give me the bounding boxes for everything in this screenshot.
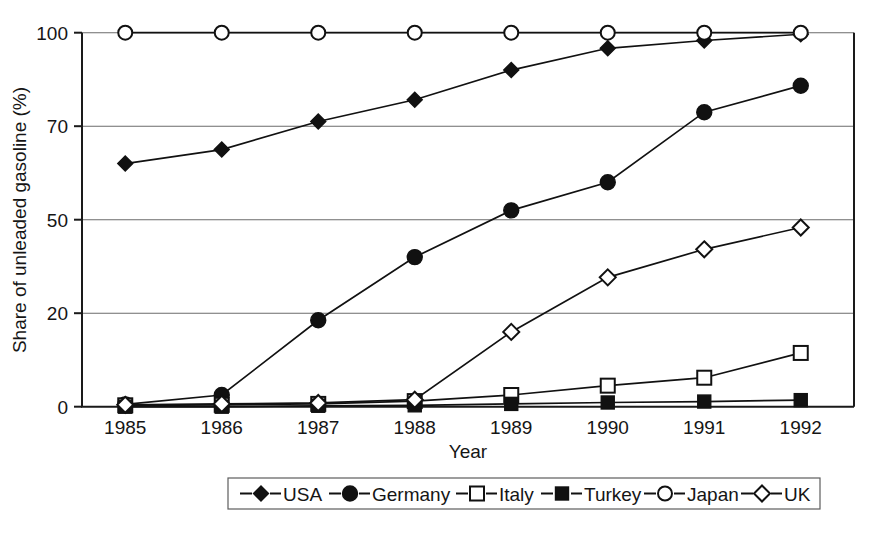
marker-open-circle — [311, 26, 325, 40]
marker-open-circle — [118, 26, 132, 40]
marker-filled-circle — [311, 313, 326, 328]
y-axis-ticks: 0205070100 — [36, 23, 82, 418]
y-tick-label-70: 70 — [47, 116, 68, 137]
line-chart: Share of unleaded gasoline (%) 020507010… — [0, 0, 875, 538]
marker-open-circle — [794, 26, 808, 40]
x-tick-label-1986: 1986 — [201, 417, 243, 438]
legend-label: Turkey — [584, 484, 642, 505]
chart-figure: Share of unleaded gasoline (%) 020507010… — [0, 0, 875, 538]
series-usa — [118, 27, 809, 171]
chart-legend: USAGermanyItalyTurkeyJapanUK — [228, 478, 820, 509]
marker-open-diamond — [600, 269, 616, 285]
x-tick-label-1988: 1988 — [394, 417, 436, 438]
marker-filled-circle — [504, 203, 519, 218]
marker-filled-circle — [697, 105, 712, 120]
marker-open-square — [470, 487, 484, 501]
y-tick-label-0: 0 — [57, 397, 68, 418]
marker-filled-circle — [407, 250, 422, 265]
series-line-usa — [125, 34, 801, 163]
x-axis-ticks: 19851986198719881989199019911992 — [104, 417, 822, 438]
y-tick-label-20: 20 — [47, 303, 68, 324]
marker-filled-diamond — [214, 142, 229, 157]
x-tick-label-1992: 1992 — [780, 417, 822, 438]
marker-filled-circle — [600, 175, 615, 190]
marker-open-circle — [504, 26, 518, 40]
marker-filled-square — [556, 487, 569, 500]
marker-filled-diamond — [118, 156, 133, 171]
marker-open-square — [601, 379, 615, 393]
marker-open-diamond — [503, 324, 519, 340]
marker-open-circle — [658, 487, 672, 501]
x-tick-label-1991: 1991 — [683, 417, 725, 438]
marker-filled-square — [698, 395, 711, 408]
legend-label: Italy — [499, 484, 534, 505]
marker-open-circle — [697, 26, 711, 40]
y-tick-label-100: 100 — [36, 23, 68, 44]
marker-filled-square — [505, 397, 518, 410]
legend-label: USA — [283, 484, 322, 505]
marker-open-circle — [601, 26, 615, 40]
legend-label: Japan — [687, 484, 739, 505]
legend-label: UK — [784, 484, 811, 505]
series-japan — [118, 26, 808, 40]
y-axis-title: Share of unleaded gasoline (%) — [9, 87, 30, 353]
marker-filled-diamond — [311, 114, 326, 129]
marker-open-square — [794, 346, 808, 360]
marker-open-square — [697, 371, 711, 385]
marker-filled-circle — [793, 78, 808, 93]
marker-filled-square — [601, 396, 614, 409]
marker-open-diamond — [696, 241, 712, 257]
x-tick-label-1985: 1985 — [104, 417, 146, 438]
marker-open-circle — [408, 26, 422, 40]
x-axis-title: Year — [449, 441, 488, 462]
marker-filled-square — [794, 394, 807, 407]
marker-filled-diamond — [600, 41, 615, 56]
x-tick-label-1990: 1990 — [587, 417, 629, 438]
legend-label: Germany — [372, 484, 451, 505]
x-tick-label-1989: 1989 — [490, 417, 532, 438]
x-tick-label-1987: 1987 — [297, 417, 339, 438]
marker-filled-circle — [343, 486, 358, 501]
marker-open-diamond — [793, 219, 809, 235]
y-axis-title-text: Share of unleaded gasoline (%) — [9, 87, 30, 353]
gridlines — [82, 33, 854, 314]
marker-open-circle — [215, 26, 229, 40]
marker-filled-diamond — [504, 63, 519, 78]
y-tick-label-50: 50 — [47, 210, 68, 231]
marker-filled-diamond — [407, 92, 422, 107]
